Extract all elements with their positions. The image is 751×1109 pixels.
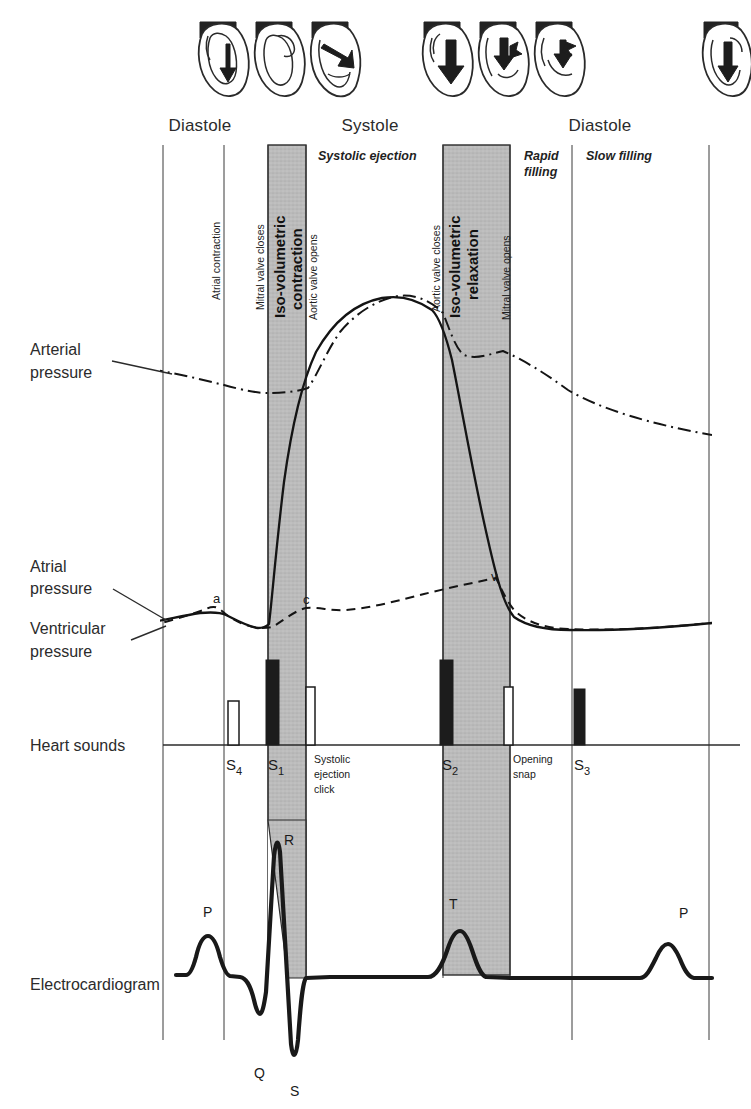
note-click: click <box>314 783 335 795</box>
heart-isovolumetric-contraction-3 <box>311 22 361 96</box>
wave-letter-a: a <box>213 591 221 606</box>
label-arterial-pressure-line1: Arterial <box>30 341 81 358</box>
wiggers-diagram-figure: Diastole Systole Diastole Systolic eject… <box>0 0 751 1109</box>
pressure-curves <box>150 296 712 631</box>
label-atrial-pressure-line1: Atrial <box>30 558 66 575</box>
label-ventricular-pressure-line1: Ventricular <box>30 620 106 637</box>
arterial-pressure-curve <box>150 296 712 435</box>
annot-isovolumetric-relaxation-line1: Iso-volumetric <box>446 215 463 318</box>
ecg-letter-p2: P <box>679 905 688 921</box>
note-opening: Opening <box>513 753 553 765</box>
heart-sound-bar-s2 <box>440 660 453 745</box>
heart-sound-label-s4: S4 <box>226 756 242 777</box>
subphase-slow-filling: Slow filling <box>586 149 652 163</box>
annot-isovolumetric-contraction-line2: contraction <box>288 228 305 310</box>
subphase-filling: filling <box>524 165 558 179</box>
annot-isovolumetric-relaxation-line2: relaxation <box>464 229 481 300</box>
phase-label-diastole-2: Diastole <box>568 116 631 135</box>
atrial-pressure-curve <box>150 578 712 630</box>
label-heart-sounds: Heart sounds <box>30 737 125 754</box>
heart-isovolumetric-relaxation-5 <box>479 22 529 96</box>
heart-sound-bar-s1 <box>266 660 279 745</box>
diagram-canvas: Diastole Systole Diastole Systolic eject… <box>0 0 751 1109</box>
heart-sound-label-s3: S3 <box>574 756 590 777</box>
heart-sounds-section: S4 S1 S2 S3 Systolic ejection click Open… <box>163 660 740 795</box>
heart-slow-filling-7 <box>703 22 751 96</box>
subphase-systolic-ejection: Systolic ejection <box>318 149 417 163</box>
label-ventricular-pressure-line2: pressure <box>30 643 92 660</box>
opening-snap-bar <box>504 687 513 745</box>
note-systolic: Systolic <box>314 753 350 765</box>
wave-letter-c: c <box>303 592 310 607</box>
wave-letter-v: v <box>491 569 498 584</box>
ecg-letter-s: S <box>290 1083 299 1099</box>
heart-systolic-ejection-4 <box>423 22 473 96</box>
phase-label-systole: Systole <box>341 116 398 135</box>
leader-ventricular-pressure <box>131 626 166 640</box>
label-atrial-pressure-line2: pressure <box>30 580 92 597</box>
ecg-letter-r: R <box>284 832 294 848</box>
systolic-ejection-click-bar <box>306 687 315 745</box>
ecg-letter-p1: P <box>203 904 212 920</box>
phase-labels: Diastole Systole Diastole <box>168 116 631 135</box>
phase-label-diastole-1: Diastole <box>168 116 231 135</box>
heart-sound-bar-s3 <box>574 689 585 745</box>
heart-sound-bar-s4 <box>228 701 239 745</box>
heart-sound-notes: Systolic ejection click Opening snap <box>314 753 553 795</box>
annot-aortic-valve-opens: Aortic valve opens <box>307 234 319 320</box>
left-axis-labels: Arterial pressure Atrial pressure Ventri… <box>30 341 172 993</box>
annot-aortic-valve-closes: Aortic valve closes <box>430 225 442 312</box>
heart-atrial-contraction-2 <box>255 22 305 96</box>
subphase-rapid: Rapid <box>524 149 559 163</box>
annot-atrial-contraction: Atrial contraction <box>210 222 222 300</box>
annot-isovolumetric-contraction-line1: Iso-volumetric <box>271 215 288 318</box>
ecg-letter-q: Q <box>254 1065 265 1081</box>
note-snap: snap <box>513 768 536 780</box>
ventricular-pressure-curve <box>150 297 712 630</box>
ecg-letter-t: T <box>449 896 458 912</box>
annot-mitral-valve-opens: Mitral valve opens <box>500 235 512 320</box>
heart-diastole-filling-1 <box>199 22 249 96</box>
label-electrocardiogram: Electrocardiogram <box>30 976 160 993</box>
heart-rapid-filling-6 <box>535 22 585 96</box>
leader-atrial-pressure <box>113 589 166 620</box>
heart-icon-row <box>199 22 751 96</box>
label-arterial-pressure-line2: pressure <box>30 364 92 381</box>
note-ejection: ejection <box>314 768 350 780</box>
annot-mitral-valve-closes: Mitral valve closes <box>254 224 266 310</box>
